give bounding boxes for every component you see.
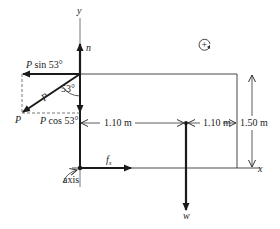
p-sin-label: P sin 53° bbox=[25, 59, 63, 70]
y-axis-label: y bbox=[76, 5, 82, 16]
axis-label: axis bbox=[63, 174, 79, 185]
p-cos-label: P cos 53° bbox=[39, 115, 78, 126]
weight-label: w bbox=[183, 210, 190, 221]
applied-force-label: P bbox=[14, 114, 21, 125]
friction-label: fs bbox=[106, 154, 112, 167]
rotation-direction-icon: + bbox=[199, 39, 210, 51]
dim-left-label: 1.10 m bbox=[104, 117, 132, 128]
dim-right-label: 1.10 m bbox=[203, 117, 231, 128]
free-body-diagram: y n x P sin 53° P P P cos 53° 53° 1.10 m… bbox=[0, 0, 280, 229]
angle-label: 53° bbox=[61, 83, 75, 94]
normal-force-label: n bbox=[86, 42, 91, 53]
x-axis-label: x bbox=[257, 163, 263, 174]
axis-point bbox=[78, 166, 82, 170]
dim-height-label: 1.50 m bbox=[240, 117, 268, 128]
svg-text:+: + bbox=[202, 39, 208, 50]
